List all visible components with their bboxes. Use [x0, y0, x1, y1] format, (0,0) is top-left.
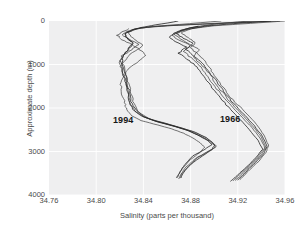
y-tick-label: 0 [41, 17, 45, 25]
series-annotation-1994: 1994 [113, 115, 133, 125]
x-tick-label: 34.88 [169, 196, 213, 205]
x-tick-label: 34.96 [263, 196, 306, 205]
series-annotation-1966: 1966 [220, 114, 240, 124]
x-tick-label: 34.76 [27, 196, 71, 205]
profile-line [181, 21, 284, 179]
profile-line [169, 26, 262, 181]
profile-line [122, 21, 220, 178]
x-tick-label: 34.92 [216, 196, 260, 205]
plot-area [49, 21, 285, 195]
x-tick-label: 34.84 [121, 196, 165, 205]
profile-line [174, 21, 266, 180]
x-tick-label: 34.80 [74, 196, 118, 205]
profile-line [172, 25, 265, 181]
salinity-depth-profile-figure: 01000200030004000 Salinity (parts per th… [0, 0, 306, 231]
profile-line [122, 21, 279, 178]
profile-lines [49, 21, 285, 195]
x-axis-title: Salinity (parts per thousand) [49, 211, 285, 220]
y-axis-title: Approximate depth (m) [25, 24, 34, 174]
